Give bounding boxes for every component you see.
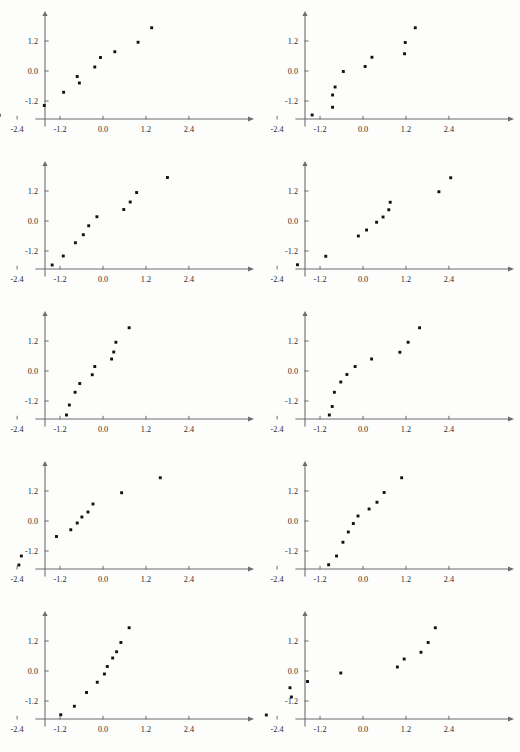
data-point — [76, 75, 79, 78]
scatter-series — [51, 176, 169, 266]
x-axis-tick-label: -2.4 — [11, 275, 24, 284]
data-point — [352, 522, 355, 525]
x-axis-tick-label: 0.0 — [98, 725, 108, 734]
y-axis-tick-label: -1.2 — [25, 697, 38, 706]
data-point — [128, 626, 131, 629]
data-point — [398, 351, 401, 354]
x-axis-tick-label: 2.4 — [184, 275, 194, 284]
y-axis-arrow-icon — [302, 311, 307, 316]
y-axis-tick-label: 0.0 — [28, 667, 38, 676]
x-axis-arrow-icon — [508, 566, 514, 571]
data-point — [113, 50, 116, 53]
y-axis-tick-label: 1.2 — [28, 337, 38, 346]
x-axis-tick-label: 2.4 — [184, 725, 194, 734]
data-point — [137, 41, 140, 44]
data-point — [91, 373, 94, 376]
data-point — [289, 686, 292, 689]
y-axis-tick-label: 1.2 — [288, 637, 298, 646]
data-point — [354, 365, 357, 368]
probability-plot-panel-10: -2.4-1.20.01.22.41.20.0-1.2 — [260, 600, 520, 750]
data-point — [92, 503, 95, 506]
scatter-series — [311, 26, 417, 116]
y-axis-tick-label: 0.0 — [288, 217, 298, 226]
y-axis-arrow-icon — [302, 161, 307, 166]
probability-plot-panel-1: -2.4-1.20.01.22.41.20.0-1.2 — [0, 0, 260, 150]
data-point — [74, 241, 77, 244]
y-axis-tick-label: 1.2 — [288, 37, 298, 46]
x-axis-tick-label: -1.2 — [54, 425, 67, 434]
data-point — [383, 491, 386, 494]
data-point — [96, 681, 99, 684]
x-axis-tick-label: 0.0 — [358, 125, 368, 134]
data-point — [87, 224, 90, 227]
x-axis-tick-label: -1.2 — [314, 125, 327, 134]
data-point — [365, 229, 368, 232]
y-axis-tick-label: 1.2 — [288, 337, 298, 346]
data-point — [333, 391, 336, 394]
data-point — [403, 52, 406, 55]
data-point — [110, 358, 113, 361]
y-axis-tick-label: 1.2 — [288, 487, 298, 496]
x-axis-tick-label: 2.4 — [444, 575, 454, 584]
data-point — [296, 263, 299, 266]
data-point — [339, 381, 342, 384]
data-point — [339, 672, 342, 675]
data-point — [334, 86, 337, 89]
x-axis-tick-label: 2.4 — [184, 125, 194, 134]
x-axis-arrow-icon — [248, 566, 254, 571]
x-axis-tick-label: 1.2 — [141, 425, 151, 434]
data-point — [120, 491, 123, 494]
scatter-series — [328, 326, 421, 416]
data-point — [387, 208, 390, 211]
data-point — [364, 65, 367, 68]
y-axis-tick-label: 0.0 — [28, 367, 38, 376]
y-axis-tick-label: -1.2 — [285, 247, 298, 256]
x-axis-tick-label: 0.0 — [98, 575, 108, 584]
y-axis-tick-label: 1.2 — [28, 37, 38, 46]
data-point — [99, 56, 102, 59]
data-point — [396, 666, 399, 669]
data-point — [437, 190, 440, 193]
data-point — [115, 650, 118, 653]
data-point — [370, 358, 373, 361]
data-point — [403, 658, 406, 661]
data-point — [119, 641, 122, 644]
x-axis-tick-label: -2.4 — [11, 575, 24, 584]
data-point — [265, 714, 268, 717]
y-axis-arrow-icon — [302, 461, 307, 466]
y-axis-tick-label: 1.2 — [288, 187, 298, 196]
probability-plot-panel-4: -2.4-1.20.01.22.41.20.0-1.2 — [260, 150, 520, 300]
scatter-series — [65, 326, 131, 416]
x-axis-tick-label: -2.4 — [11, 425, 24, 434]
x-axis-tick-label: 2.4 — [444, 725, 454, 734]
data-point — [87, 511, 90, 514]
y-axis-tick-label: -1.2 — [285, 547, 298, 556]
y-axis-tick-label: 1.2 — [28, 637, 38, 646]
scatter-series — [0, 26, 153, 116]
data-point — [78, 382, 81, 385]
y-axis-tick-label: -1.2 — [25, 397, 38, 406]
x-axis-tick-label: 1.2 — [141, 125, 151, 134]
data-point — [347, 531, 350, 534]
x-axis-tick-label: 2.4 — [444, 275, 454, 284]
y-axis-tick-label: 0.0 — [28, 517, 38, 526]
y-axis-tick-label: -1.2 — [285, 397, 298, 406]
data-point — [327, 563, 330, 566]
x-axis-tick-label: 0.0 — [358, 725, 368, 734]
data-point — [62, 255, 65, 258]
y-axis-arrow-icon — [42, 611, 47, 616]
scatter-series — [327, 476, 403, 566]
figure-page: -2.4-1.20.01.22.41.20.0-1.2-2.4-1.20.01.… — [0, 0, 520, 752]
data-point — [345, 373, 348, 376]
x-axis-tick-label: 1.2 — [401, 425, 411, 434]
x-axis-arrow-icon — [248, 416, 254, 421]
data-point — [371, 56, 374, 59]
probability-plot-panel-7: -2.4-1.20.01.22.41.20.0-1.2 — [0, 450, 260, 600]
data-point — [434, 626, 437, 629]
x-axis-tick-label: 1.2 — [141, 575, 151, 584]
data-point — [331, 405, 334, 408]
probability-plot-panel-2: -2.4-1.20.01.22.41.20.0-1.2 — [260, 0, 520, 150]
data-point — [389, 201, 392, 204]
data-point — [17, 564, 20, 567]
data-point — [112, 351, 115, 354]
